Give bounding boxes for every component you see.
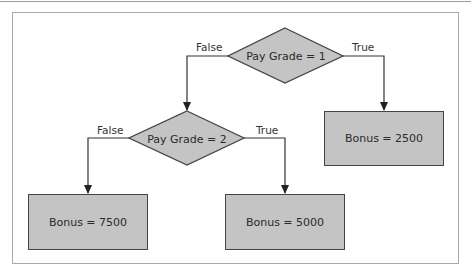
arrowhead-icon: [281, 185, 289, 194]
arrowhead-icon: [84, 185, 92, 194]
outcome-box-2500: Bonus = 2500: [324, 111, 444, 166]
decision-1-label: Pay Grade = 1: [246, 50, 326, 63]
edge-label-d1-false: False: [196, 41, 222, 53]
outcome-box-5000: Bonus = 5000: [225, 194, 345, 250]
edge-label-d2-true: True: [256, 124, 278, 136]
edge-label-d2-false: False: [97, 124, 123, 136]
edge-d2-true: [244, 138, 285, 193]
edge-d2-false: [88, 138, 129, 193]
outcome-label: Bonus = 5000: [246, 216, 324, 229]
edge-label-d1-true: True: [352, 41, 374, 53]
outcome-label: Bonus = 2500: [345, 132, 423, 145]
edge-d1-false: [187, 56, 228, 110]
outcome-box-7500: Bonus = 7500: [28, 194, 148, 250]
outcome-label: Bonus = 7500: [49, 216, 127, 229]
arrowhead-icon: [380, 102, 388, 111]
decision-2-label: Pay Grade = 2: [147, 133, 227, 146]
edge-d1-true: [343, 56, 384, 110]
arrowhead-icon: [183, 102, 191, 111]
